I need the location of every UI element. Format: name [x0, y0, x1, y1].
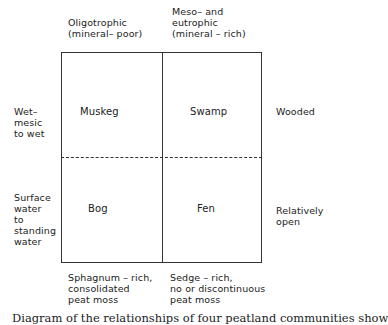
- row-label-wooded: Wooded: [276, 106, 315, 117]
- column-footer-sphagnum: Sphagnum – rich, consolidated peat moss: [68, 272, 152, 305]
- column-footer-sedge: Sedge – rich, no or discontinuous peat m…: [170, 272, 265, 305]
- cell-swamp: Swamp: [190, 106, 227, 117]
- column-header-oligotrophic: Oligotrophic (mineral– poor): [68, 17, 142, 39]
- row-label-surface-water: Surface water to standing water: [14, 192, 56, 247]
- cell-bog: Bog: [88, 203, 108, 214]
- row-label-relatively-open: Relatively open: [276, 205, 324, 227]
- figure-caption: Diagram of the relationships of four pea…: [12, 311, 388, 325]
- row-label-wet-mesic: Wet– mesic to wet: [14, 106, 45, 139]
- cell-fen: Fen: [197, 203, 215, 214]
- horizontal-dashed-divider: [61, 157, 262, 158]
- cell-muskeg: Muskeg: [80, 106, 119, 117]
- column-header-meso-eutrophic: Meso– and eutrophic (mineral – rich): [172, 6, 246, 39]
